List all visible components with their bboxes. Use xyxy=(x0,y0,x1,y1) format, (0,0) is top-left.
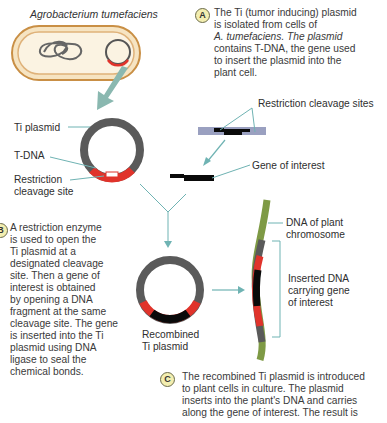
ti-plasmid xyxy=(84,122,140,178)
label-plant-dna: DNA of plantchromosome xyxy=(286,217,345,241)
label-gene-of-interest: Gene of interest xyxy=(252,160,325,172)
label-restriction-sites: Restriction cleavage sites xyxy=(258,98,374,110)
label-t-dna: T-DNA xyxy=(14,150,45,162)
step-c-text: The recombined Ti plasmid is introducedt… xyxy=(182,371,387,419)
label-ti-plasmid: Ti plasmid xyxy=(14,122,60,134)
recombined-plasmid xyxy=(140,260,200,320)
label-recombined-plasmid: RecombinedTi plasmid xyxy=(142,329,199,353)
diagram-title: Agrobacterium tumefaciens xyxy=(30,8,158,20)
step-b-text: A restriction enzymeis used to open theT… xyxy=(10,222,140,378)
step-a-badge: A xyxy=(195,8,210,23)
label-inserted-dna: Inserted DNAcarrying geneof interest xyxy=(288,273,350,309)
step-a-text: The Ti (tumor inducing) plasmidis isolat… xyxy=(214,7,387,79)
step-c-badge: C xyxy=(160,372,175,387)
label-restriction-site: Restrictioncleavage site xyxy=(14,174,73,198)
